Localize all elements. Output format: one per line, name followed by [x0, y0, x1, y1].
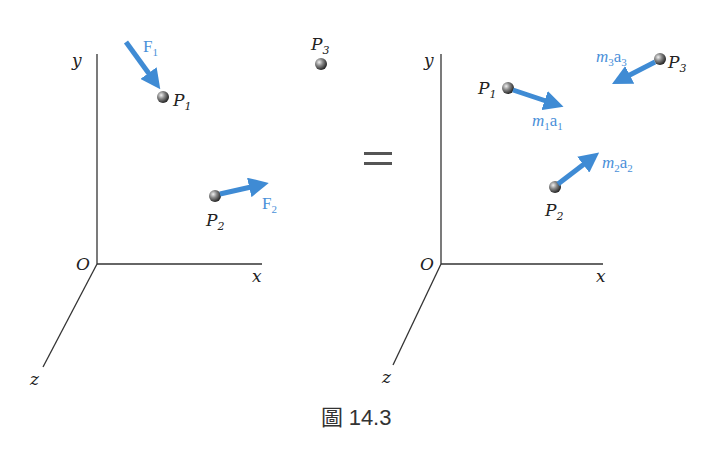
- equals-sign: [364, 152, 392, 165]
- particle-p1: [502, 82, 514, 94]
- x-axis-label: x: [596, 266, 606, 286]
- force-f2-label: F2: [262, 194, 277, 215]
- origin-label: O: [76, 254, 90, 274]
- z-axis-label: z: [381, 367, 392, 387]
- particle-p2: [209, 190, 221, 202]
- origin-label: O: [420, 254, 434, 274]
- z-axis-label: z: [29, 369, 40, 389]
- inertia-m1a1-label: m1a1: [532, 111, 563, 132]
- particle-p1-label: P1: [477, 78, 496, 101]
- inertia-m2a2-arrow: [558, 158, 592, 184]
- particle-p3-label: P3: [310, 34, 329, 57]
- particle-p3: [654, 53, 666, 65]
- y-axis-label: y: [71, 50, 82, 70]
- force-f2-arrow: [220, 185, 260, 194]
- right-panel: y x z O P1 m1a1 m2a2 P2 m3a3 P3: [381, 47, 686, 387]
- particle-p2-label: P2: [205, 210, 224, 233]
- particle-p2-label: P2: [544, 200, 563, 223]
- inertia-m1a1-arrow: [513, 90, 555, 104]
- left-panel: y x z O F1 P1 F2 P2 P3: [29, 34, 329, 389]
- particle-p3-label: P3: [667, 52, 686, 75]
- force-f1-label: F1: [143, 37, 158, 58]
- inertia-m2a2-label: m2a2: [602, 153, 633, 174]
- figure-caption: 圖 14.3: [321, 405, 392, 430]
- particle-p3: [315, 58, 327, 70]
- particle-p1: [157, 91, 169, 103]
- particle-p1-label: P1: [172, 90, 191, 113]
- left-axes: y x z O: [29, 50, 262, 389]
- figure-14-3: y x z O F1 P1 F2 P2 P3 y x z O: [0, 0, 712, 450]
- inertia-m3a3-label: m3a3: [596, 47, 627, 68]
- y-axis-label: y: [423, 50, 434, 70]
- x-axis-label: x: [252, 266, 262, 286]
